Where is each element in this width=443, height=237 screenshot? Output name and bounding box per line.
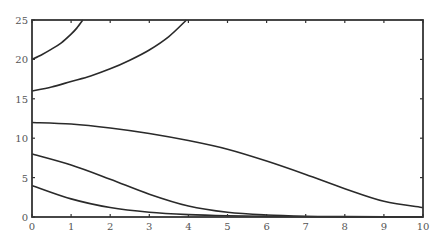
- x-tick-label: 8: [342, 221, 348, 232]
- x-tick-label: 3: [146, 221, 152, 232]
- x-tick-label: 2: [107, 221, 113, 232]
- x-tick-label: 6: [263, 221, 269, 232]
- x-tick-label: 1: [68, 221, 74, 232]
- x-tick-label: 9: [381, 221, 387, 232]
- line-chart: 012345678910 0510152025: [0, 0, 443, 237]
- x-tick-label: 4: [185, 221, 191, 232]
- x-tick-label: 10: [417, 221, 430, 232]
- y-tick-label: 15: [15, 94, 28, 105]
- y-tick-label: 0: [22, 212, 28, 223]
- y-axis-ticks: 0510152025: [15, 15, 423, 223]
- curves: [32, 20, 423, 217]
- plot-frame: [32, 20, 423, 217]
- curve-y0-12: [32, 122, 423, 207]
- curve-y0-20: [32, 20, 83, 59]
- y-tick-label: 20: [15, 54, 28, 65]
- x-tick-label: 7: [303, 221, 309, 232]
- curve-y0-16: [32, 20, 186, 91]
- curve-y0-8: [32, 154, 423, 217]
- x-tick-label: 0: [29, 221, 35, 232]
- x-tick-label: 5: [224, 221, 230, 232]
- y-tick-label: 10: [15, 133, 28, 144]
- y-tick-label: 5: [22, 173, 28, 184]
- y-tick-label: 25: [15, 15, 28, 26]
